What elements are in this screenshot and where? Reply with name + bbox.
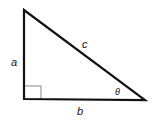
label-theta: θ [115, 87, 120, 97]
label-a: a [11, 56, 17, 68]
right-triangle-diagram: a c θ b [0, 0, 166, 122]
label-c: c [82, 38, 88, 50]
triangle [24, 10, 145, 100]
right-angle-marker [24, 86, 41, 99]
label-b: b [77, 105, 83, 117]
